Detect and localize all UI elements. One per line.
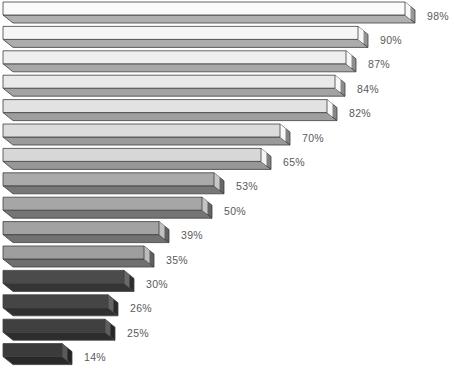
bar-front-face xyxy=(3,246,144,259)
bar-front-face xyxy=(3,270,124,283)
3d-bar-chart: 98%90%87%84%82%70%65%53%50%39%35%30%26%2… xyxy=(0,0,454,368)
bar-row-65pct: 65% xyxy=(3,148,305,169)
bar-bottom-face xyxy=(3,235,169,243)
bar-front-face xyxy=(3,222,159,235)
bar-bottom-face xyxy=(3,259,154,267)
bar-front-face xyxy=(3,75,335,88)
bar-front-face xyxy=(3,148,261,161)
bar-front-face xyxy=(3,26,358,39)
bar-front-face xyxy=(3,124,280,137)
bar-row-82pct: 82% xyxy=(3,100,371,121)
bar-row-35pct: 35% xyxy=(3,246,188,267)
bar-row-90pct: 90% xyxy=(3,26,402,47)
bar-value-label: 35% xyxy=(166,254,188,266)
bar-value-label: 82% xyxy=(349,107,371,119)
bar-bottom-face xyxy=(3,210,212,218)
bar-front-face xyxy=(3,319,105,332)
bar-front-face xyxy=(3,173,214,186)
bar-value-label: 26% xyxy=(130,302,152,314)
bar-bottom-face xyxy=(3,137,290,145)
bar-value-label: 50% xyxy=(224,205,246,217)
bar-bottom-face xyxy=(3,283,134,291)
bar-value-label: 90% xyxy=(380,34,402,46)
bar-row-98pct: 98% xyxy=(3,2,449,23)
bar-bottom-face xyxy=(3,332,115,340)
bar-front-face xyxy=(3,2,405,15)
bar-front-face xyxy=(3,344,62,357)
bar-front-face xyxy=(3,51,346,64)
bar-row-84pct: 84% xyxy=(3,75,379,96)
bar-row-50pct: 50% xyxy=(3,197,246,218)
bar-value-label: 70% xyxy=(302,132,324,144)
bar-bottom-face xyxy=(3,88,345,96)
bar-value-label: 39% xyxy=(181,229,203,241)
bar-bottom-face xyxy=(3,39,368,47)
bar-value-label: 65% xyxy=(283,156,305,168)
bar-value-label: 87% xyxy=(368,58,390,70)
bar-value-label: 25% xyxy=(127,327,149,339)
bar-value-label: 84% xyxy=(357,83,379,95)
bar-front-face xyxy=(3,295,108,308)
bar-bottom-face xyxy=(3,308,118,316)
bar-value-label: 14% xyxy=(84,351,106,363)
bar-value-label: 98% xyxy=(427,10,449,22)
bar-value-label: 30% xyxy=(146,278,168,290)
bar-front-face xyxy=(3,197,202,210)
bar-bottom-face xyxy=(3,161,271,169)
bar-row-70pct: 70% xyxy=(3,124,324,145)
bar-row-30pct: 30% xyxy=(3,270,168,291)
bar-row-53pct: 53% xyxy=(3,173,258,194)
bar-value-label: 53% xyxy=(236,180,258,192)
bar-bottom-face xyxy=(3,64,356,72)
bar-row-26pct: 26% xyxy=(3,295,152,316)
bar-row-25pct: 25% xyxy=(3,319,149,340)
bar-row-14pct: 14% xyxy=(3,344,106,365)
chart-canvas: 98%90%87%84%82%70%65%53%50%39%35%30%26%2… xyxy=(0,0,454,368)
bar-bottom-face xyxy=(3,357,72,365)
bar-bottom-face xyxy=(3,186,224,194)
bar-row-39pct: 39% xyxy=(3,222,203,243)
bar-row-87pct: 87% xyxy=(3,51,390,72)
bar-bottom-face xyxy=(3,113,337,121)
bar-front-face xyxy=(3,100,327,113)
bar-bottom-face xyxy=(3,15,415,23)
